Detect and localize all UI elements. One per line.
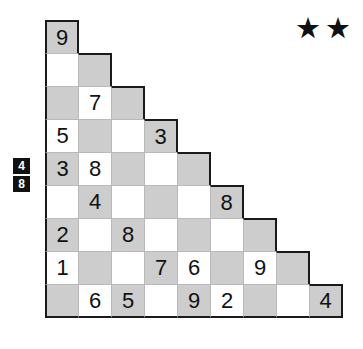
- grid-cell-empty[interactable]: [177, 152, 211, 186]
- grid-cell-empty[interactable]: [177, 185, 211, 219]
- grid-cell-empty[interactable]: [111, 185, 145, 219]
- grid-cell-filled: 8: [210, 185, 244, 219]
- grid-row: [45, 53, 342, 86]
- clue-box: 48: [13, 158, 30, 192]
- grid-cell-filled: 4: [309, 284, 343, 318]
- grid-cell-filled: 4: [78, 185, 112, 219]
- grid-cell-empty[interactable]: [210, 251, 244, 285]
- grid-cell-empty[interactable]: [111, 86, 145, 120]
- grid-cell-filled: 1: [45, 251, 79, 285]
- grid-cell-filled: 3: [144, 119, 178, 153]
- grid-cell-filled: 6: [78, 284, 112, 318]
- grid-cell-filled: 9: [243, 251, 277, 285]
- grid-cell-empty[interactable]: [177, 218, 211, 252]
- grid-cell-filled: 9: [177, 284, 211, 318]
- grid-cell-empty[interactable]: [78, 53, 112, 87]
- grid-cell-filled: 7: [144, 251, 178, 285]
- grid-cell-filled: 8: [111, 218, 145, 252]
- grid-row: 28: [45, 218, 342, 251]
- clue-value-1: 4: [13, 158, 30, 174]
- grid-cell-filled: 5: [45, 119, 79, 153]
- grid-cell-empty[interactable]: [243, 218, 277, 252]
- grid-cell-empty[interactable]: [45, 86, 79, 120]
- grid-row: 48: [45, 185, 342, 218]
- grid-cell-filled: 6: [177, 251, 211, 285]
- grid-cell-empty[interactable]: [78, 218, 112, 252]
- grid-cell-empty[interactable]: [210, 218, 244, 252]
- grid-cell-filled: 8: [78, 152, 112, 186]
- grid-cell-filled: 2: [210, 284, 244, 318]
- grid-cell-empty[interactable]: [111, 119, 145, 153]
- grid-cell-filled: 7: [78, 86, 112, 120]
- grid-cell-empty[interactable]: [111, 152, 145, 186]
- grid-cell-empty[interactable]: [78, 119, 112, 153]
- grid-row: 7: [45, 86, 342, 119]
- grid-cell-filled: 9: [45, 20, 79, 54]
- grid-cell-empty[interactable]: [45, 284, 79, 318]
- grid-cell-empty[interactable]: [243, 284, 277, 318]
- grid-cell-filled: 5: [111, 284, 145, 318]
- grid-row: 53: [45, 119, 342, 152]
- grid-cell-empty[interactable]: [276, 251, 310, 285]
- grid-cell-filled: 3: [45, 152, 79, 186]
- grid-row: 65924: [45, 284, 342, 317]
- puzzle-root: ★★ 48 9753384828176965924: [0, 0, 363, 349]
- grid-cell-empty[interactable]: [78, 251, 112, 285]
- grid-row: 38: [45, 152, 342, 185]
- grid-cell-empty[interactable]: [144, 185, 178, 219]
- grid-cell-empty[interactable]: [276, 284, 310, 318]
- grid-cell-empty[interactable]: [144, 218, 178, 252]
- grid-row: 9: [45, 20, 342, 53]
- grid-row: 1769: [45, 251, 342, 284]
- grid-cell-empty[interactable]: [45, 185, 79, 219]
- grid-cell-empty[interactable]: [45, 53, 79, 87]
- grid-cell-empty[interactable]: [144, 284, 178, 318]
- grid-cell-filled: 2: [45, 218, 79, 252]
- puzzle-grid: 9753384828176965924: [45, 20, 342, 317]
- grid-cell-empty[interactable]: [111, 251, 145, 285]
- clue-value-2: 8: [13, 176, 30, 192]
- grid-cell-empty[interactable]: [144, 152, 178, 186]
